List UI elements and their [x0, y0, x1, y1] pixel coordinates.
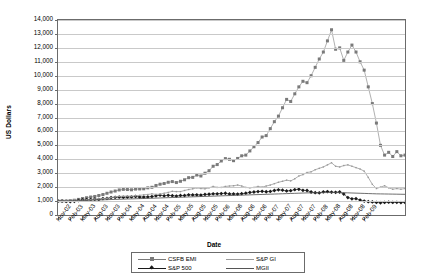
data-point-marker	[215, 192, 219, 196]
data-point-marker	[187, 193, 191, 197]
gridline	[58, 34, 405, 35]
legend-line-swatch	[226, 259, 254, 260]
data-point-marker	[326, 39, 329, 42]
data-point-marker	[351, 166, 352, 167]
data-point-marker	[285, 98, 288, 101]
data-point-marker	[273, 120, 276, 123]
data-point-marker	[219, 192, 223, 196]
data-point-marker	[294, 178, 295, 179]
data-point-marker	[184, 190, 185, 191]
data-point-marker	[261, 136, 264, 139]
y-tick-mark	[55, 201, 58, 202]
data-point-marker	[123, 196, 124, 197]
data-point-marker	[163, 182, 166, 185]
data-point-marker	[223, 191, 227, 195]
gridline	[58, 159, 405, 160]
data-point-marker	[122, 188, 125, 191]
y-tick-label: 12,000	[7, 44, 53, 50]
data-point-marker	[363, 69, 366, 72]
data-point-marker	[167, 181, 170, 184]
data-point-marker	[139, 195, 140, 196]
legend-label: S&P GI	[256, 256, 276, 262]
y-tick-label: 11,000	[7, 58, 53, 64]
data-point-marker	[106, 198, 107, 199]
data-point-marker	[101, 193, 104, 196]
data-point-marker	[277, 188, 281, 192]
gridline	[58, 187, 405, 188]
data-point-marker	[350, 44, 353, 47]
data-point-marker	[281, 106, 284, 109]
y-tick-mark	[55, 20, 58, 21]
data-point-marker	[188, 189, 189, 190]
gridline	[58, 90, 405, 91]
data-point-marker	[127, 195, 128, 196]
y-tick-label: 4,000	[7, 155, 53, 161]
data-point-marker	[278, 182, 279, 183]
data-point-marker	[270, 184, 271, 185]
y-tick-label: 14,000	[7, 16, 53, 22]
data-point-marker	[335, 166, 336, 167]
data-point-marker	[338, 190, 342, 194]
data-point-marker	[94, 198, 95, 199]
data-point-marker	[175, 181, 178, 184]
data-point-marker	[248, 191, 252, 195]
data-point-marker	[391, 155, 394, 158]
data-point-marker	[97, 194, 100, 197]
gridline	[58, 76, 405, 77]
data-point-marker	[363, 170, 364, 171]
data-point-marker	[392, 189, 393, 190]
data-point-marker	[395, 150, 398, 153]
y-tick-label: 6,000	[7, 127, 53, 133]
y-tick-label: 13,000	[7, 30, 53, 36]
data-point-marker	[244, 191, 248, 195]
data-point-marker	[285, 189, 289, 193]
data-point-marker	[264, 190, 268, 194]
y-tick-label: 8,000	[7, 100, 53, 106]
y-tick-mark	[55, 62, 58, 63]
data-point-marker	[318, 58, 321, 61]
data-point-marker	[244, 154, 247, 157]
data-point-marker	[323, 166, 324, 167]
legend-line-swatch	[226, 268, 254, 269]
gridline	[58, 201, 405, 202]
data-point-marker	[176, 191, 177, 192]
data-point-marker	[383, 154, 386, 157]
data-point-marker	[289, 189, 293, 193]
data-point-marker	[252, 190, 256, 194]
data-point-marker	[355, 167, 356, 168]
y-tick-mark	[55, 159, 58, 160]
data-point-marker	[343, 165, 344, 166]
data-point-marker	[268, 190, 272, 194]
data-point-marker	[372, 184, 373, 185]
data-point-marker	[355, 51, 358, 54]
data-point-marker	[114, 190, 117, 193]
data-point-marker	[183, 178, 186, 181]
data-point-marker	[359, 168, 360, 169]
data-point-marker	[404, 154, 406, 157]
data-point-marker	[119, 196, 120, 197]
data-point-marker	[305, 189, 309, 193]
data-point-marker	[330, 28, 333, 31]
data-point-marker	[290, 180, 291, 181]
y-tick-mark	[55, 118, 58, 119]
data-point-marker	[180, 191, 181, 192]
data-point-marker	[265, 134, 268, 137]
data-point-marker	[321, 190, 325, 194]
data-point-marker	[170, 194, 174, 198]
data-point-marker	[319, 168, 320, 169]
y-tick-mark	[55, 34, 58, 35]
data-point-marker	[110, 191, 113, 194]
series-line	[58, 30, 405, 201]
data-point-marker	[118, 188, 121, 191]
data-point-marker	[195, 193, 199, 197]
x-axis-title: Date	[207, 241, 221, 248]
data-point-marker	[327, 164, 328, 165]
data-point-marker	[400, 189, 401, 190]
data-point-marker	[204, 188, 205, 189]
chart-legend: CSFB EMIS&P 500S&P GIMGII	[131, 252, 305, 273]
data-point-marker	[191, 176, 194, 179]
data-point-marker	[339, 166, 340, 167]
gridline	[58, 131, 405, 132]
data-point-marker	[147, 194, 148, 195]
data-point-marker	[162, 194, 166, 198]
